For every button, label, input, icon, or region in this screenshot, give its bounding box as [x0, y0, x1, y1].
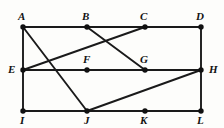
vertex-label-a: A — [18, 11, 25, 22]
vertex-label-f: F — [83, 54, 90, 65]
vertex-label-g: G — [140, 54, 148, 65]
graph-edge-bg — [87, 27, 145, 70]
graph-vertex-c — [142, 24, 147, 29]
vertex-label-i: I — [20, 115, 24, 126]
graph-vertex-k — [142, 108, 147, 113]
graph-vertex-l — [198, 108, 203, 113]
vertex-label-h: H — [209, 64, 218, 75]
vertex-label-k: K — [140, 115, 147, 126]
vertex-label-e: E — [8, 64, 15, 75]
graph-vertex-a — [20, 24, 25, 29]
vertex-label-d: D — [196, 11, 204, 22]
vertex-label-b: B — [82, 11, 89, 22]
graph-vertex-j — [84, 108, 89, 113]
graph-vertex-b — [84, 24, 89, 29]
vertex-label-j: J — [84, 115, 90, 126]
graph-vertex-e — [20, 67, 25, 72]
graph-vertex-i — [20, 108, 25, 113]
graph-edge-aj — [23, 27, 87, 111]
graph-figure: ABCDEFGHIJKL — [0, 0, 224, 128]
graph-vertex-h — [198, 67, 203, 72]
edges-layer — [23, 27, 201, 111]
graph-canvas — [0, 0, 224, 128]
graph-vertex-d — [198, 24, 203, 29]
graph-vertex-g — [142, 67, 147, 72]
vertex-label-c: C — [140, 11, 147, 22]
vertex-label-l: L — [197, 115, 204, 126]
graph-edge-jh — [87, 70, 201, 111]
graph-vertex-f — [84, 67, 89, 72]
